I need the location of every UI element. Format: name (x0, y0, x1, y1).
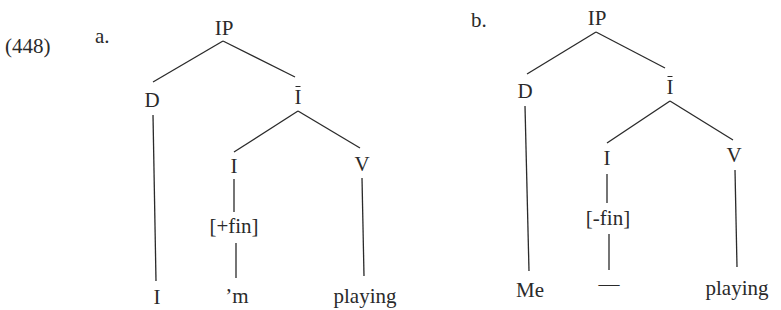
tree-a-leaf-subject: I (154, 285, 161, 309)
tree-b-ibar-node: I (667, 75, 674, 99)
tree-b-i-node: I (604, 146, 611, 170)
tree-b-d-node: D (517, 79, 532, 103)
tree-b-branches (525, 32, 737, 271)
tree-b-leaf-inflection: — (599, 272, 620, 296)
tree-a-ibar-node: I (295, 85, 302, 109)
tree-a-d-node: D (144, 88, 159, 112)
tree-b-ip-node: IP (588, 6, 607, 30)
tree-a-v-node: V (354, 152, 369, 176)
tree-b-leaf-verb: playing (706, 276, 769, 300)
tree-b-leaf-subject: Me (516, 278, 544, 302)
tree-b-v-node: V (726, 143, 741, 167)
tree-a-ip-node: IP (215, 16, 234, 40)
tree-a-i-node: I (231, 154, 238, 178)
example-number: (448) (5, 34, 51, 58)
tree-a-leaf-verb: playing (334, 284, 397, 308)
tree-branches (0, 0, 781, 310)
tree-a-label: a. (95, 24, 110, 48)
tree-b-label: b. (471, 8, 487, 32)
tree-a-feature-node: [+fin] (209, 214, 258, 238)
tree-b-feature-node: [-fin] (586, 206, 630, 230)
tree-a-leaf-inflection: ’m (225, 284, 248, 308)
tree-a-branches (153, 41, 364, 281)
